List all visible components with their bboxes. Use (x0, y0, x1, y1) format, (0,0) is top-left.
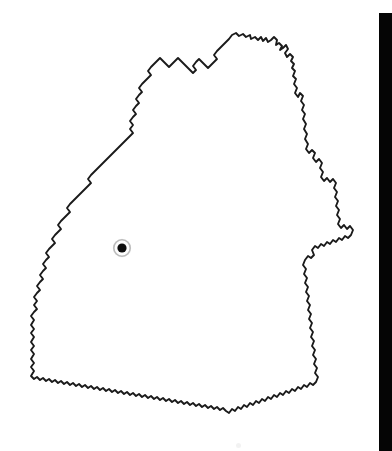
marker-dot (117, 243, 126, 252)
page-edge-bar (379, 13, 392, 451)
marker-layer (0, 0, 392, 451)
scan-speck (236, 443, 241, 448)
map-page: Baden-Württemberg outline map (0, 0, 392, 451)
location-marker[interactable] (113, 239, 131, 257)
